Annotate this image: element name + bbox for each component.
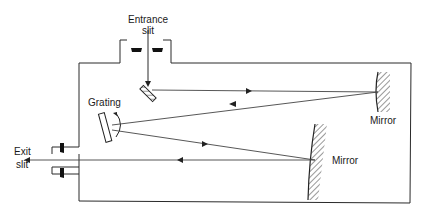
grating-label: Grating [88,97,121,108]
mirror-bottom-label: Mirror [332,155,359,166]
ray-arrows [24,88,252,163]
exit-slit [52,100,79,178]
entrance-slit-label: Entrance [128,14,168,25]
exit-slit-label: Exit [14,146,31,157]
exit-slit-label-2: slit [16,159,28,170]
grating [98,112,120,142]
housing [79,63,411,203]
entrance-slit-label-2: slit [142,25,154,36]
entrance-slit [120,30,171,84]
collimating-mirror [376,72,390,112]
camera-mirror [308,124,327,200]
mirror-top-label: Mirror [370,115,397,126]
monochromator-diagram: Entrance slit Grating Mirror Mirror Exit… [0,0,423,221]
folding-mirror [140,85,156,101]
